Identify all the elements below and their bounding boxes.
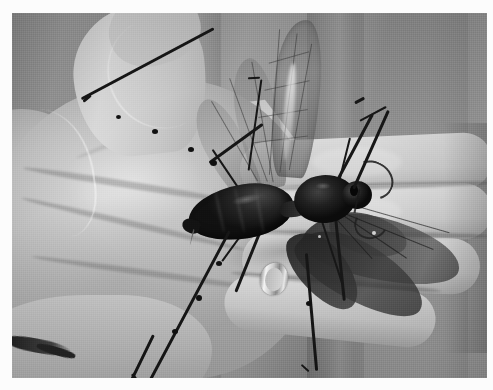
- photograph: [12, 13, 487, 378]
- photo-vignette: [12, 13, 487, 378]
- screenshot-root: Black-and-white photograph of a very lar…: [0, 0, 493, 390]
